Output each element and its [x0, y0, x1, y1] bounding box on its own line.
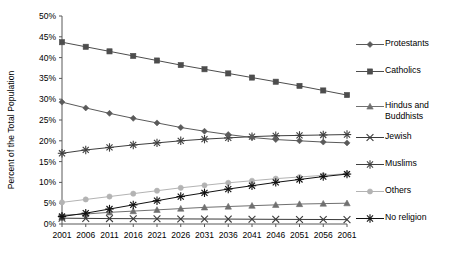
legend-label: Protestants: [385, 38, 429, 49]
legend-item[interactable]: No religion: [355, 212, 427, 224]
legend-label: Muslims: [385, 158, 417, 169]
y-tick-label: 0%: [44, 219, 57, 229]
legend-label: Jewish: [385, 131, 412, 142]
legend-marker-x-icon: [355, 132, 385, 143]
chart-legend: ProtestantsCatholicsHindus and Buddhists…: [355, 10, 463, 260]
legend-marker-star-icon: [355, 213, 385, 224]
legend-marker-star-icon: [355, 159, 385, 170]
plot-area: 0%5%10%15%20%25%30%35%40%45%50%200120062…: [22, 6, 352, 254]
legend-label: Catholics: [385, 65, 421, 76]
chart-svg: 0%5%10%15%20%25%30%35%40%45%50%200120062…: [22, 6, 352, 254]
x-tick-label: 2021: [148, 230, 167, 240]
series-hindus-and-buddhists: [59, 200, 350, 218]
y-axis-title: Percent of the Total Population: [2, 0, 20, 260]
y-tick-label: 5%: [44, 198, 57, 208]
y-tick-label: 20%: [39, 136, 56, 146]
legend-item[interactable]: Muslims: [355, 158, 417, 170]
legend-label: Hindus and Buddhists: [385, 100, 429, 121]
series-others: [59, 171, 349, 205]
y-tick-label: 35%: [39, 73, 56, 83]
x-tick-label: 2056: [314, 230, 333, 240]
x-tick-label: 2046: [266, 230, 285, 240]
x-tick-label: 2006: [76, 230, 95, 240]
legend-marker-circle-icon: [355, 186, 385, 197]
x-tick-label: 2041: [243, 230, 262, 240]
y-tick-label: 10%: [39, 177, 56, 187]
x-tick-label: 2011: [100, 230, 119, 240]
x-tick-label: 2036: [219, 230, 238, 240]
chart-root: Percent of the Total Population 0%5%10%1…: [0, 0, 463, 260]
y-tick-label: 15%: [39, 157, 56, 167]
legend-item[interactable]: Hindus and Buddhists: [355, 100, 429, 121]
legend-marker-triangle-icon: [355, 101, 385, 112]
legend-item[interactable]: Jewish: [355, 131, 412, 143]
x-tick-label: 2001: [53, 230, 72, 240]
series-jewish: [59, 215, 351, 223]
y-tick-label: 30%: [39, 94, 56, 104]
x-tick-label: 2061: [338, 230, 357, 240]
y-axis-title-text: Percent of the Total Population: [6, 71, 16, 190]
legend-marker-diamond-icon: [355, 39, 385, 50]
legend-item[interactable]: Others: [355, 185, 411, 197]
series-catholics: [59, 40, 349, 98]
x-tick-label: 2026: [171, 230, 190, 240]
x-tick-label: 2051: [290, 230, 309, 240]
x-tick-label: 2031: [195, 230, 214, 240]
y-tick-label: 40%: [39, 53, 56, 63]
legend-label: No religion: [385, 212, 427, 223]
y-tick-label: 25%: [39, 115, 56, 125]
legend-marker-square-icon: [355, 66, 385, 77]
x-tick-label: 2016: [124, 230, 143, 240]
y-tick-label: 50%: [39, 11, 56, 21]
y-tick-label: 45%: [39, 32, 56, 42]
legend-item[interactable]: Protestants: [355, 38, 429, 50]
legend-item[interactable]: Catholics: [355, 65, 421, 77]
legend-label: Others: [385, 185, 411, 196]
